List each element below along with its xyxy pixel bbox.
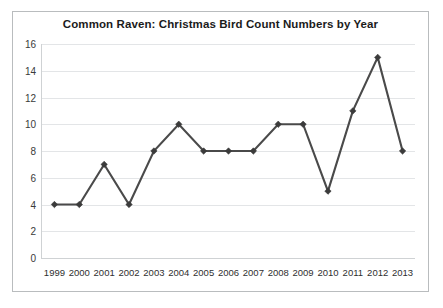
data-point-marker: 2009: 10 <box>300 121 306 127</box>
y-axis-tick-label: 10 <box>25 119 36 130</box>
x-axis-tick-label: 2003 <box>143 267 164 278</box>
y-axis-tick-label: 6 <box>30 172 36 183</box>
series-polyline <box>54 57 402 204</box>
data-point-marker: 2012: 15 <box>375 54 381 60</box>
data-point-marker: 2006: 8 <box>225 148 231 154</box>
x-axis-tick-label: 2002 <box>118 267 139 278</box>
data-point-marker: 1999: 4 <box>51 201 57 207</box>
x-axis-tick-label: 2006 <box>218 267 239 278</box>
y-axis-tick-label: 0 <box>30 253 36 264</box>
x-axis-tick-label: 1999 <box>44 267 65 278</box>
y-axis-tick-label: 14 <box>25 65 36 76</box>
x-axis-tick-label: 2012 <box>367 267 388 278</box>
y-axis-tick-label: 12 <box>25 92 36 103</box>
chart-panel: Common Raven: Christmas Bird Count Numbe… <box>12 11 429 292</box>
y-axis-tick-label: 16 <box>25 39 36 50</box>
x-axis-tick-label: 2011 <box>343 267 363 278</box>
x-axis-tick-label: 2004 <box>168 267 189 278</box>
chart-title: Common Raven: Christmas Bird Count Numbe… <box>13 18 428 30</box>
x-axis-tick-label: 2009 <box>293 267 314 278</box>
x-axis-tick-label: 2013 <box>392 267 413 278</box>
x-axis-tick-label: 2007 <box>243 267 264 278</box>
x-axis-tick-label: 2008 <box>268 267 289 278</box>
x-axis-tick-label: 2005 <box>193 267 214 278</box>
data-point-marker: 2011: 11 <box>350 108 356 114</box>
y-axis-tick-label: 4 <box>30 199 36 210</box>
data-series-line: 1999: 42000: 42001: 72002: 42003: 82004:… <box>42 44 415 258</box>
x-axis-tick-label: 2001 <box>94 267 115 278</box>
data-point-marker: 2013: 8 <box>399 148 405 154</box>
y-axis-tick-label: 2 <box>30 226 36 237</box>
plot-area: 0246810121416 19992000200120022003200420… <box>41 44 415 259</box>
data-point-marker: 2010: 5 <box>325 188 331 194</box>
x-axis-tick-label: 2000 <box>69 267 90 278</box>
y-axis-tick-label: 8 <box>30 146 36 157</box>
x-axis-tick-label: 2010 <box>317 267 338 278</box>
